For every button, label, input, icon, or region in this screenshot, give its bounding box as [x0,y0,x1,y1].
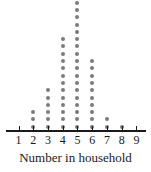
data-dot [75,59,79,63]
dot-column [86,59,98,132]
data-dot [90,66,94,70]
x-axis-tick [77,126,78,131]
data-dot [61,74,65,78]
data-dot [75,44,79,48]
data-dot [75,30,79,34]
x-axis-tick [33,126,34,131]
data-dot [75,88,79,92]
data-dot [61,44,65,48]
data-dot [75,37,79,41]
plot-area [0,0,151,132]
data-dot [75,103,79,107]
data-dot [75,81,79,85]
data-dot [75,66,79,70]
data-dot [90,117,94,121]
data-dot [90,110,94,114]
data-dot [46,117,50,121]
x-axis-tick-label: 2 [26,133,40,147]
data-dot [90,81,94,85]
data-dot [61,117,65,121]
data-dot [61,81,65,85]
data-dot [61,52,65,56]
data-dot [105,117,109,121]
x-axis-tick-label: 5 [70,133,84,147]
x-axis-tick-label: 7 [100,133,114,147]
x-axis-tick [19,126,20,131]
data-dot [46,88,50,92]
data-dot [75,110,79,114]
data-dot [61,96,65,100]
x-axis-tick-label: 8 [115,133,129,147]
x-axis-tick-label: 1 [12,133,26,147]
data-dot [61,37,65,41]
x-axis-tick-label: 9 [129,133,143,147]
data-dot [61,88,65,92]
data-dot [61,110,65,114]
x-axis-tick-label: 6 [85,133,99,147]
x-axis-tick [136,126,137,131]
data-dot [46,110,50,114]
data-dot [90,96,94,100]
data-dot [61,103,65,107]
data-dot [75,8,79,12]
data-dot [46,96,50,100]
data-dot [75,15,79,19]
data-dot [90,74,94,78]
x-axis-tick [63,126,64,131]
data-dot [75,23,79,27]
data-dot [75,96,79,100]
x-axis-tick [48,126,49,131]
data-dot [75,52,79,56]
data-dot [46,103,50,107]
x-axis-tick-label: 3 [41,133,55,147]
x-axis-tick [122,126,123,131]
x-axis-line [6,130,146,132]
data-dot [90,103,94,107]
data-dot [61,66,65,70]
x-axis-tick [92,126,93,131]
data-dot [75,117,79,121]
x-axis-tick-label: 4 [56,133,70,147]
data-dot [90,59,94,63]
data-dot [31,110,35,114]
data-dot [75,1,79,5]
dot-plot-chart: Number in household 123456789 [0,0,151,172]
dot-column [57,37,69,132]
data-dot [31,117,35,121]
data-dot [61,59,65,63]
x-axis-tick [107,126,108,131]
x-axis-title: Number in household [0,150,151,166]
data-dot [90,88,94,92]
data-dot [75,74,79,78]
dot-column [71,1,83,132]
